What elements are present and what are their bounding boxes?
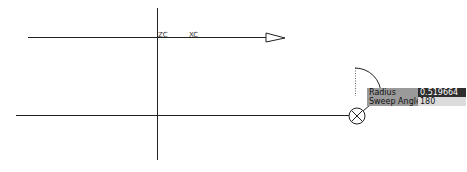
zc-axis-label: ZC [158, 31, 168, 39]
radius-row: Radius 0.519664 [367, 88, 466, 97]
radius-label: Radius [367, 88, 418, 97]
sweep-angle-row: Sweep Angle 180 [367, 97, 466, 106]
xc-arrow-icon[interactable] [266, 33, 285, 42]
sweep-angle-label: Sweep Angle [367, 97, 418, 106]
center-point-crosshair-icon[interactable] [349, 108, 365, 124]
radius-input[interactable]: 0.519664 [418, 88, 466, 97]
graphics-viewport[interactable] [0, 0, 467, 172]
sweep-angle-input[interactable]: 180 [418, 97, 466, 106]
dynamic-input-box: Radius 0.519664 Sweep Angle 180 [367, 88, 466, 106]
xc-axis-label: XC [189, 31, 198, 39]
